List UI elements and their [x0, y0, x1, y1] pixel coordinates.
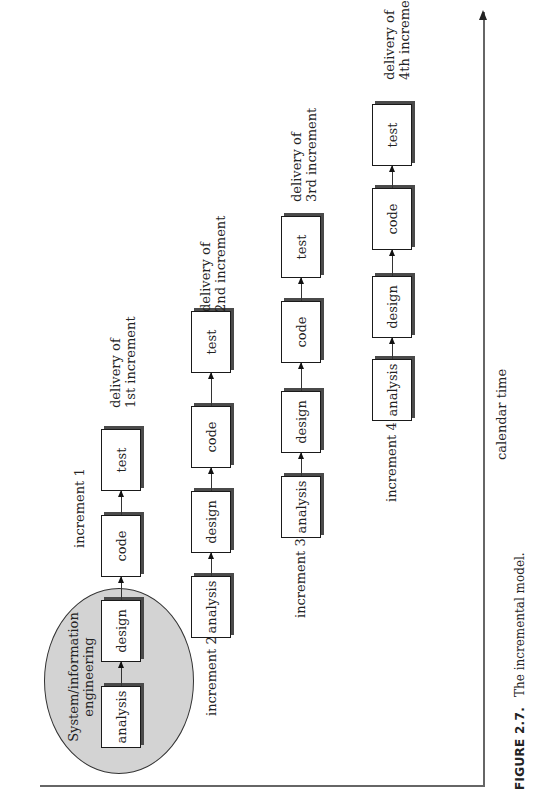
inc1-delivery-line2: 1st increment	[123, 316, 138, 408]
inc1-analysis-label: analysis	[114, 691, 129, 744]
inc1-analysis-box: analysis	[101, 686, 141, 748]
inc3-test-label: test	[294, 235, 309, 260]
inc4-analysis-box: analysis	[372, 359, 412, 421]
inc2-test-label: test	[204, 330, 219, 355]
inc4-delivery-line1: delivery of	[382, 0, 397, 80]
inc2-design-label: design	[204, 500, 219, 544]
inc1-delivery-line1: delivery of	[108, 316, 123, 408]
inc3-test-box: test	[281, 216, 321, 278]
inc1-test-box: test	[101, 429, 141, 491]
inc3-delivery-line1: delivery of	[289, 108, 304, 202]
inc3-arrow-3	[301, 278, 302, 301]
calendar-time-axis	[483, 12, 485, 785]
inc1-design-label: design	[114, 609, 129, 653]
system-engineering-label-line1: System/information	[66, 602, 81, 752]
system-engineering-label: System/information engineering	[66, 602, 96, 752]
inc2-analysis-box: analysis	[191, 576, 231, 638]
inc3-label: increment 3	[293, 538, 308, 618]
inc3-arrow-2	[301, 363, 302, 391]
inc4-design-label: design	[385, 285, 400, 329]
inc4-label: increment 4	[384, 422, 399, 502]
inc2-design-box: design	[191, 491, 231, 553]
inc1-delivery-label: delivery of 1st increment	[108, 316, 138, 408]
inc4-delivery-line2: 4th increment	[397, 0, 412, 80]
system-engineering-label-line2: engineering	[81, 602, 96, 752]
inc2-arrow-3	[211, 373, 212, 406]
inc4-arrow-3	[392, 166, 393, 188]
inc4-code-box: code	[372, 188, 412, 250]
inc1-arrow-2	[121, 577, 122, 600]
figure-title: The incremental model.	[513, 552, 527, 697]
inc3-delivery-line2: 3rd increment	[304, 108, 319, 202]
inc2-code-box: code	[191, 406, 231, 468]
inc1-arrow-1	[121, 662, 122, 686]
inc4-test-box: test	[372, 104, 412, 166]
inc1-test-label: test	[114, 448, 129, 473]
inc3-analysis-box: analysis	[281, 476, 321, 538]
inc4-delivery-label: delivery of 4th increment	[382, 0, 412, 80]
inc4-design-box: design	[372, 276, 412, 338]
inc3-design-label: design	[294, 400, 309, 444]
inc3-code-label: code	[294, 316, 309, 347]
figure-number: FIGURE 2.7.	[513, 707, 527, 790]
inc4-code-label: code	[385, 203, 400, 234]
inc1-code-label: code	[114, 530, 129, 561]
inc2-arrow-1	[211, 553, 212, 576]
inc2-analysis-label: analysis	[204, 581, 219, 634]
calendar-time-label: calendar time	[494, 369, 509, 460]
inc2-arrow-2	[211, 468, 212, 491]
inc1-design-box: design	[101, 600, 141, 662]
figure-caption: FIGURE 2.7.The incremental model.	[512, 552, 528, 790]
inc3-design-box: design	[281, 391, 321, 453]
inc2-delivery-line1: delivery of	[198, 216, 213, 312]
inc2-code-label: code	[204, 421, 219, 452]
inc4-test-label: test	[385, 123, 400, 148]
inc3-analysis-label: analysis	[294, 481, 309, 534]
inc2-test-box: test	[191, 311, 231, 373]
inc1-arrow-3	[121, 491, 122, 515]
baseline-rule	[40, 785, 485, 787]
inc3-code-box: code	[281, 301, 321, 363]
inc3-arrow-1	[301, 453, 302, 476]
inc4-arrow-1	[392, 338, 393, 359]
inc2-delivery-label: delivery of 2nd increment	[198, 216, 228, 312]
inc1-code-box: code	[101, 515, 141, 577]
inc1-label: increment 1	[72, 468, 87, 548]
inc2-delivery-line2: 2nd increment	[213, 216, 228, 312]
inc4-analysis-label: analysis	[385, 364, 400, 417]
inc3-delivery-label: delivery of 3rd increment	[289, 108, 319, 202]
inc2-label: increment 2	[204, 636, 219, 716]
inc4-arrow-2	[392, 250, 393, 276]
